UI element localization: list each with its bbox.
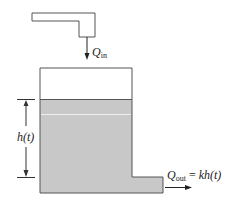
height-label: h(t) [17,130,34,144]
inflow-arrow [85,37,90,60]
inlet-pipe [32,13,95,37]
tank-diagram: Qin h(t) Qout=kh(t) [0,0,231,205]
water-body [40,99,163,193]
outflow-arrow [165,185,192,190]
inflow-label: Qin [92,45,107,60]
outflow-label: Qout=kh(t) [167,168,221,183]
